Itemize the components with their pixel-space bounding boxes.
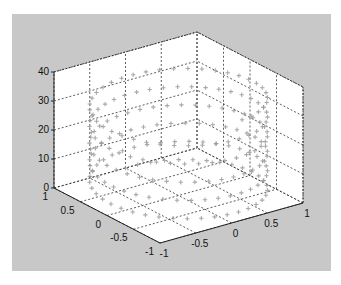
left-tick-label: -0.5 xyxy=(110,232,128,243)
z-tick-label: 40 xyxy=(38,66,50,77)
left-tick-label: 0.5 xyxy=(61,205,75,216)
right-tick-label: 0 xyxy=(233,228,239,239)
z-tick-label: 10 xyxy=(38,153,50,164)
right-tick-label: 1 xyxy=(304,208,310,219)
left-tick-label: 1 xyxy=(42,191,48,202)
left-tick-label: 0 xyxy=(95,219,101,230)
helix-3d-plot: 01020304010.50-0.5-1-1-0.500.51 xyxy=(0,0,341,285)
left-tick-label: -1 xyxy=(145,246,154,257)
right-tick-label: -0.5 xyxy=(191,238,209,249)
z-tick-label: 20 xyxy=(38,124,50,135)
z-tick-label: 30 xyxy=(38,95,50,106)
right-tick-label: 0.5 xyxy=(264,218,278,229)
right-tick-label: -1 xyxy=(160,248,169,259)
